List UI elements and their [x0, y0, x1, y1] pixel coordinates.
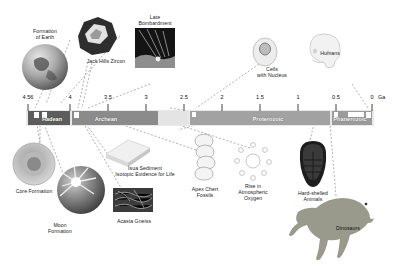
- callout-cells-with-nucleus: Cells with Nucleus: [244, 66, 300, 78]
- eon-label-proterozoic: Proterozoic: [253, 116, 284, 122]
- callout-jack-hills-zircon: Jack Hills Zircon: [71, 58, 141, 64]
- tick-label-2-5: 2.5: [180, 94, 188, 100]
- tick-label-0-5: 0.5: [332, 94, 340, 100]
- axis-unit-label: Ga: [378, 94, 385, 100]
- callout-acasta-gneiss: Acasta Gneiss: [106, 218, 162, 224]
- tick-label-2: 2: [220, 94, 223, 100]
- tick-label-3: 3: [144, 94, 147, 100]
- tick-label-4: 4: [68, 94, 71, 100]
- tick-label-1: 1: [296, 94, 299, 100]
- tick-label-4-56: 4.56: [23, 94, 34, 100]
- tick-label-0: 0: [370, 94, 373, 100]
- callout-formation-of-earth: Formation of Earth: [15, 28, 75, 40]
- callout-moon-formation: Moon Formation: [32, 222, 88, 234]
- tick-label-3-5: 3.5: [104, 94, 112, 100]
- callout-rise-in-oxygen: Rise in Atmospheric Oxygen: [226, 183, 280, 201]
- timeline-figure: 4.56 4 3.5 3 2.5 2 1.5 1 0.5 0 Ga Hadean…: [0, 0, 394, 276]
- eon-label-archean: Archean: [95, 116, 117, 122]
- callout-humans: Humans: [308, 50, 352, 56]
- time-axis: [0, 0, 394, 276]
- tick-label-1-5: 1.5: [256, 94, 264, 100]
- eon-label-phanerozoic: Phanerozoic: [333, 116, 366, 122]
- callout-late-bombardment: Late Bombardment: [125, 14, 185, 26]
- callout-hard-shelled-animals: Hard-shelled Animals: [285, 190, 341, 202]
- callout-isua-sediment: Isua Sediment Isotopic Evidence for Life: [97, 165, 193, 177]
- callout-apex-chert-fossils: Apex Chert Fossils: [180, 186, 230, 198]
- eon-label-hadean: Hadean: [42, 116, 62, 122]
- callout-dinosaurs: Dinosaurs: [324, 225, 372, 231]
- callout-core-formation: Core Formation: [3, 188, 65, 194]
